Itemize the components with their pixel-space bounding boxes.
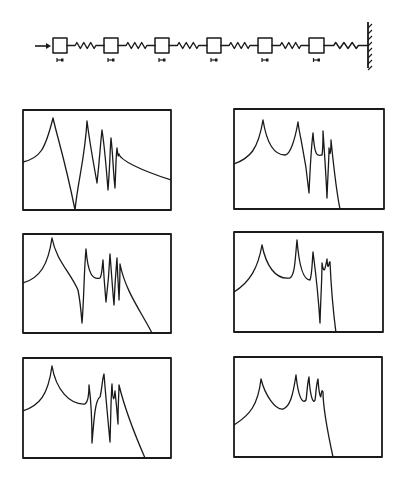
mass-block-4 bbox=[207, 38, 221, 53]
damper-marker-icon bbox=[108, 58, 115, 62]
damper-head bbox=[112, 59, 115, 62]
frequency-response-panel-2 bbox=[234, 109, 384, 209]
spring-3 bbox=[169, 43, 207, 49]
damper-head bbox=[318, 59, 321, 62]
damper-head bbox=[163, 59, 166, 62]
response-curve bbox=[23, 118, 171, 210]
damper-marker-icon bbox=[57, 58, 64, 62]
frequency-response-panel-1 bbox=[23, 110, 171, 210]
response-panels bbox=[23, 109, 384, 458]
frequency-response-panel-6 bbox=[234, 357, 382, 457]
spring-4 bbox=[221, 43, 258, 49]
spring-6 bbox=[324, 43, 368, 49]
mass-block-6 bbox=[309, 38, 324, 53]
response-curve bbox=[234, 240, 336, 333]
damper-marker-icon bbox=[314, 58, 321, 62]
damper-head bbox=[266, 59, 269, 62]
mass-block-2 bbox=[104, 38, 118, 53]
damper-head bbox=[215, 59, 218, 62]
response-curve bbox=[234, 375, 333, 457]
arrowhead-icon bbox=[46, 43, 51, 49]
spring-2 bbox=[118, 43, 155, 49]
panel-frame bbox=[23, 234, 171, 333]
damper-marker-icon bbox=[159, 58, 166, 62]
damper-head bbox=[61, 59, 64, 62]
frequency-response-panel-5 bbox=[23, 358, 171, 458]
frequency-response-panel-3 bbox=[23, 234, 171, 333]
mass-block-5 bbox=[258, 38, 272, 53]
spring-1 bbox=[67, 43, 104, 49]
panel-frame bbox=[23, 358, 171, 458]
panel-frame bbox=[234, 232, 383, 332]
response-curve bbox=[234, 120, 340, 209]
response-curve bbox=[23, 366, 145, 458]
panel-frame bbox=[234, 357, 382, 457]
mass-block-1 bbox=[53, 38, 67, 53]
frequency-response-panel-4 bbox=[234, 232, 383, 333]
response-curve bbox=[23, 238, 152, 333]
mass-block-3 bbox=[155, 38, 169, 53]
spring-5 bbox=[272, 43, 309, 49]
figure-canvas bbox=[0, 0, 405, 484]
panel-frame bbox=[234, 109, 384, 209]
damper-marker-icon bbox=[211, 58, 218, 62]
mass-spring-chain bbox=[35, 22, 372, 70]
damper-marker-icon bbox=[262, 58, 269, 62]
panel-frame bbox=[23, 110, 171, 210]
